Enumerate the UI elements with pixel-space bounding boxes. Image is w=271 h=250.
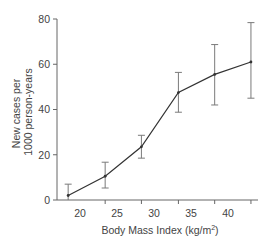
y-tick-label: 40 [38,103,50,115]
data-line [67,61,253,197]
error-bars [65,23,255,200]
data-point [67,194,70,197]
error-bar [247,23,254,99]
error-bar [65,184,72,200]
data-point [213,73,216,76]
y-axis-title-line1: New cases per [10,78,22,148]
data-point [250,61,253,64]
y-axis-title: New cases per 1000 person-years [10,68,34,156]
data-point [177,91,180,94]
x-tick-label: 35 [185,207,197,219]
data-point [104,175,107,178]
x-axis-title: Body Mass Index (kg/m2) [101,224,218,236]
x-tick-label: 20 [74,207,86,219]
x-tick-label: 40 [222,207,234,219]
y-tick-label: 20 [38,149,50,161]
y-tick-label: 60 [38,58,50,70]
x-tick-label: 25 [111,207,123,219]
x-tick-label: 30 [148,207,160,219]
y-tick-label: 0 [44,194,50,206]
data-point [140,145,143,148]
x-axis-title-text: Body Mass Index (kg/m [101,224,211,236]
y-tick-label: 80 [38,13,50,25]
x-axis-title-close: ) [215,224,219,236]
y-axis-title-line2: 1000 person-years [22,68,34,156]
bmi-incidence-chart: 020406080 2025303540 New cases per 1000 … [0,0,271,250]
y-axis: 020406080 [38,13,57,206]
x-axis: 2025303540 [57,200,258,219]
series-polyline [68,62,251,196]
